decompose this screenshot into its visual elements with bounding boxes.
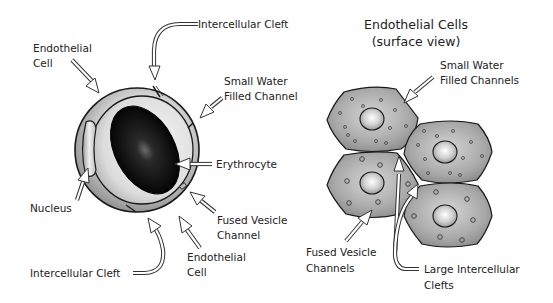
- panel-title-line-2: (surface view): [372, 34, 461, 49]
- label-fused-vesicle-channels-2: Channels: [306, 262, 355, 274]
- panel-title-line-1: Endothelial Cells: [364, 17, 468, 32]
- label-intercellular-cleft-bottom: Intercellular Cleft: [30, 267, 120, 279]
- nucleus-shape: [83, 121, 97, 177]
- label-endothelial-cell-top-2: Cell: [33, 57, 53, 69]
- label-fused-vesicle-channel-2: Channel: [217, 229, 260, 241]
- endothelial-cells-surface: [327, 87, 492, 247]
- label-nucleus: Nucleus: [30, 202, 72, 214]
- cell-middle-right: [404, 121, 492, 183]
- capillary-diagram: Endothelial Cell Intercellular Cleft Sma…: [0, 0, 553, 303]
- label-endothelial-cell-bottom-2: Cell: [187, 266, 207, 278]
- label-small-water-channel: Small Water: [224, 75, 288, 87]
- label-large-intercellular-clefts: Large Intercellular: [424, 263, 520, 275]
- label-small-water-channels-2: Filled Channels: [440, 74, 519, 86]
- label-fused-vesicle-channel: Fused Vesicle: [217, 214, 287, 226]
- label-intercellular-cleft-top: Intercellular Cleft: [198, 18, 288, 30]
- right-title: Endothelial Cells (surface view): [364, 17, 468, 49]
- label-fused-vesicle-channels: Fused Vesicle: [306, 246, 376, 258]
- label-large-intercellular-clefts-2: Clefts: [424, 279, 454, 291]
- label-erythrocyte: Erythrocyte: [216, 158, 277, 170]
- cell-top-left: [327, 87, 418, 151]
- label-endothelial-cell-bottom: Endothelial: [187, 251, 246, 263]
- label-small-water-channel-2: Filled Channel: [224, 90, 298, 102]
- capillary-cross-section: [75, 86, 199, 212]
- label-small-water-channels: Small Water: [440, 59, 504, 71]
- label-endothelial-cell-top: Endothelial: [33, 42, 92, 54]
